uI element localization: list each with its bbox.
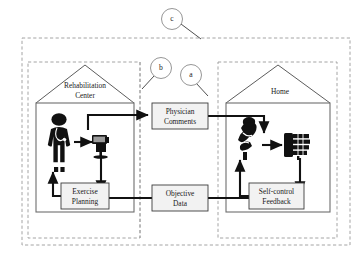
callout-a: a [181,65,209,97]
flow-self-control-feedback-to-patient [240,160,249,196]
callout-c: c [162,9,202,40]
node-exercise-planning[interactable]: Exercise Planning [61,183,109,209]
house-label-rehabilitation-center-line2: Center [75,91,95,100]
patient-figure [238,117,257,160]
node-self-control-feedback-line1: Self-control [259,187,294,196]
callout-b-leader [142,76,154,89]
node-physician-comments-line1: Physician [166,107,195,116]
node-exercise-planning-line1: Exercise [72,187,98,196]
node-physician-comments[interactable]: Physician Comments [152,103,208,129]
house-label-rehabilitation-center-line1: Rehabilitation [64,81,106,90]
clinic-workstation [92,135,109,159]
node-objective-data[interactable]: Objective Data [152,185,208,211]
house-label-home-line1: Home [271,87,290,96]
node-self-control-feedback-line2: Feedback [262,197,291,206]
callout-c-leader [181,24,201,39]
node-exercise-planning-line2: Planning [72,197,99,206]
figure-canvas: Rehabilitation Center Home [0,0,363,257]
node-self-control-feedback[interactable]: Self-control Feedback [249,183,304,209]
flow-workstation-to-physician-comments [88,115,148,130]
rehab-device [284,133,310,160]
node-objective-data-line1: Objective [166,189,195,198]
callout-b: b [142,58,172,90]
node-objective-data-line2: Data [173,199,188,208]
diagram-svg: Rehabilitation Center Home [0,0,363,257]
physician-figure [48,113,70,172]
flow-exercise-planning-to-physician [53,172,61,196]
node-physician-comments-line2: Comments [164,117,196,126]
callout-b-label: b [159,63,163,72]
callout-a-leader [196,83,208,96]
